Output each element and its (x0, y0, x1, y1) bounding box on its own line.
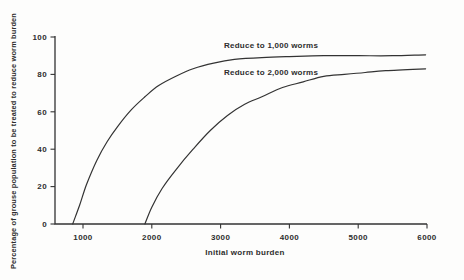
series-line-2 (145, 69, 426, 224)
y-tick-label: 100 (32, 33, 47, 42)
x-tick-label: 2000 (142, 233, 162, 242)
x-axis-title: Initial worm burden (205, 248, 284, 257)
chart-figure: 020406080100100020003000400050006000 Per… (0, 0, 464, 280)
y-tick-label: 20 (37, 182, 47, 191)
series-label-reduce-2000-worms: Reduce to 2,000 worms (224, 68, 318, 77)
x-tick-label: 3000 (211, 233, 231, 242)
x-tick-label: 5000 (348, 233, 368, 242)
x-tick-label: 4000 (280, 233, 300, 242)
x-tick-label: 1000 (73, 233, 93, 242)
axes-lines (55, 36, 427, 224)
y-tick-label: 0 (42, 220, 47, 229)
y-tick-label: 60 (37, 108, 47, 117)
series-label-reduce-1000-worms: Reduce to 1,000 worms (224, 41, 318, 50)
y-tick-label: 80 (37, 70, 47, 79)
series-line-1 (73, 55, 426, 224)
y-axis-title: Percentage of grouse population to be tr… (9, 13, 18, 269)
y-tick-label: 40 (37, 145, 47, 154)
x-tick-label: 6000 (417, 233, 437, 242)
